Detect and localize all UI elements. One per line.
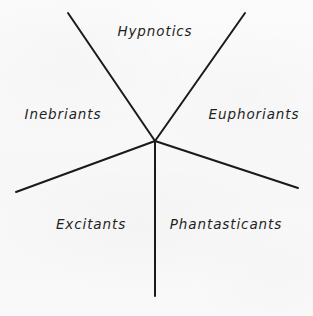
- radial-spokes-diagram: [0, 0, 313, 316]
- sector-label-inebriants: Inebriants: [25, 108, 102, 122]
- left-spoke: [16, 141, 155, 192]
- bottom-caption-strip: [0, 310, 313, 316]
- sector-label-excitants: Excitants: [56, 218, 126, 232]
- right-spoke: [155, 141, 298, 188]
- sector-label-hypnotics: Hypnotics: [117, 25, 192, 39]
- diagram-page: Hypnotics Inebriants Euphoriants Excitan…: [0, 0, 313, 316]
- sector-label-phantasticants: Phantasticants: [170, 218, 282, 232]
- sector-label-euphoriants: Euphoriants: [209, 108, 300, 122]
